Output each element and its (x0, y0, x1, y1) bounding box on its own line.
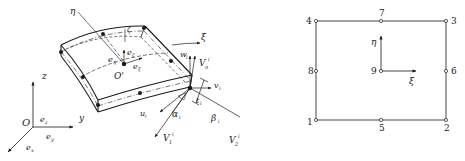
v2-i-superscript: i (238, 133, 240, 139)
z-axis-label: z (41, 71, 47, 81)
nine-node-element-diagram: η ξ 1 2 3 4 5 6 7 8 9 (306, 8, 457, 133)
node-4-label: 4 (306, 16, 312, 26)
node-5-label: 5 (379, 123, 385, 133)
local-origin-label: O' (114, 71, 124, 81)
node-9 (379, 69, 382, 72)
shell-element-diagram: z y O e z e y e x (8, 6, 240, 153)
xi-axis-arrow (172, 43, 200, 45)
node-3 (444, 19, 447, 22)
node-2-label: 2 (444, 123, 450, 133)
vn-i-superscript: i (208, 56, 210, 62)
node-5 (379, 118, 382, 121)
v1-i-superscript: i (172, 131, 174, 137)
node-1-label: 1 (307, 117, 313, 127)
ex-subscript: x (31, 147, 34, 153)
xi-label: ξ (201, 32, 207, 42)
alpha-i-subscript: i (179, 114, 181, 120)
t-i-subscript: i (200, 100, 202, 106)
node-6-label: 6 (451, 66, 457, 76)
node-1 (314, 118, 317, 121)
u-i-subscript: i (145, 113, 147, 119)
vn-i-subscript: n (205, 64, 208, 70)
ez-subscript: z (44, 119, 48, 125)
v-i-subscript: i (219, 85, 221, 91)
diagram-canvas: z y O e z e y e x (0, 0, 465, 161)
ey-subscript: y (50, 136, 54, 143)
global-origin-label: O (22, 117, 30, 128)
y-axis-label: y (78, 113, 85, 123)
node-3-label: 3 (451, 16, 457, 26)
eta-label: η (70, 6, 76, 16)
v2-i-subscript: 2 (234, 141, 238, 147)
node-2 (444, 118, 447, 121)
e-eta-subscript: η (113, 59, 116, 66)
vn-i-arrow (190, 56, 195, 88)
shell-body (61, 26, 192, 112)
xi-axis-label: ξ (409, 76, 415, 86)
eta-axis-line (78, 12, 124, 64)
w-i-subscript: i (186, 54, 188, 60)
beta-i-subscript: i (218, 118, 220, 124)
node-8-label: 8 (308, 66, 314, 76)
node-7-label: 7 (379, 8, 385, 18)
eta-axis-label: η (371, 37, 377, 47)
v1-i-subscript: 1 (169, 139, 172, 145)
beta-i-label: β (210, 113, 216, 123)
node-markers (314, 19, 447, 121)
shell-nodes (59, 26, 192, 107)
node-6 (444, 69, 447, 72)
node-7 (379, 19, 382, 22)
e-xi-subscript: ξ (138, 66, 141, 73)
node-8 (314, 69, 317, 72)
alpha-i-label: α (172, 109, 178, 119)
zeta-label: ζ (127, 26, 132, 34)
e-zeta-subscript: ζ (132, 52, 135, 59)
node-9-label: 9 (371, 66, 377, 76)
node-4 (314, 19, 317, 22)
